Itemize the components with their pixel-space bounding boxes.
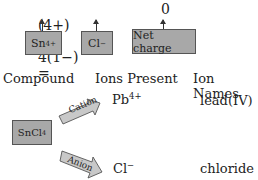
net-value: 0 — [161, 1, 170, 17]
sn-ion-box: Sn4+ — [25, 31, 62, 55]
header-ions-present: Ions Present — [95, 71, 178, 86]
arrow-up-icon — [96, 20, 97, 31]
cl-symbol: Cl — [88, 37, 100, 50]
anion-name: chloride — [200, 161, 254, 176]
cl-ion-box: Cl− — [81, 31, 113, 55]
cation-formula: Pb4+ — [112, 91, 142, 107]
net-charge-label: Net charge — [133, 29, 195, 55]
sn-symbol: Sn — [31, 37, 46, 50]
header-compound: Compound — [3, 71, 74, 86]
arrow-up-icon — [42, 20, 43, 31]
anion-formula: Cl− — [113, 160, 134, 176]
sn-charge-sup: 4+ — [46, 39, 57, 48]
net-charge-box: Net charge — [132, 29, 196, 54]
cation-name: lead(IV) — [200, 93, 253, 108]
cl-charge-sup: − — [100, 39, 106, 48]
compound-box: SnCl4 — [12, 120, 52, 145]
